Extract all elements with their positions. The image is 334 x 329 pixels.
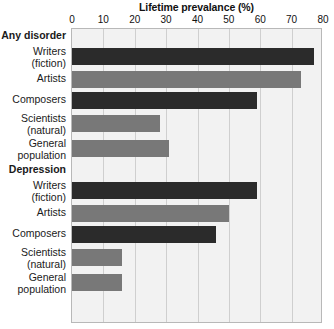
bar-label: Artists [0, 73, 66, 85]
chart-bar-row: Generalpopulation [0, 271, 334, 296]
bar [72, 182, 257, 199]
chart-bar-row: Artists [0, 204, 334, 225]
group-label: Any disorder [0, 30, 66, 42]
bar-label-line2: (natural) [0, 125, 66, 137]
bar-label: Writers(fiction) [0, 180, 66, 203]
group-label: Depression [0, 164, 66, 176]
chart-bar-row: Scientists(natural) [0, 246, 334, 271]
bar-label-line2: population [0, 284, 66, 296]
chart-container: Lifetime prevalance (%) 0102030405060708… [0, 0, 334, 329]
bar-label-line1: Writers [33, 45, 66, 57]
bar-label-line1: Scientists [21, 112, 66, 124]
chart-group-header: Depression [0, 162, 334, 179]
bar-label: Generalpopulation [0, 138, 66, 161]
bar-label-line1: Artists [37, 206, 66, 218]
chart-bar-row: Writers(fiction) [0, 179, 334, 204]
bar-label-line1: Scientists [21, 246, 66, 258]
bar [72, 274, 122, 291]
bar-label: Scientists(natural) [0, 247, 66, 270]
bar-label-line2: (natural) [0, 259, 66, 271]
bar-label-line2: (fiction) [0, 192, 66, 204]
bar [72, 205, 229, 222]
bar-label: Writers(fiction) [0, 46, 66, 69]
bar [72, 92, 257, 109]
chart-rows: Any disorderWriters(fiction)ArtistsCompo… [0, 0, 334, 329]
bar [72, 115, 160, 132]
bar [72, 140, 169, 157]
bar-label: Composers [0, 94, 66, 106]
bar-label-line2: (fiction) [0, 58, 66, 70]
bar-label-line1: Composers [12, 93, 66, 105]
bar-label-line1: General [29, 137, 66, 149]
chart-bar-row: Writers(fiction) [0, 45, 334, 70]
bar-label: Composers [0, 228, 66, 240]
bar [72, 48, 314, 65]
chart-group-header: Any disorder [0, 28, 334, 45]
chart-bar-row: Generalpopulation [0, 137, 334, 162]
chart-bar-row: Composers [0, 225, 334, 246]
bar [72, 249, 122, 266]
bar-label-line1: Artists [37, 72, 66, 84]
bar-label-line2: population [0, 150, 66, 162]
bar-label: Artists [0, 207, 66, 219]
bar-label-line1: Any disorder [1, 29, 66, 41]
bar-label-line1: Writers [33, 179, 66, 191]
bar [72, 71, 301, 88]
bar [72, 226, 216, 243]
chart-bar-row: Composers [0, 91, 334, 112]
bar-label-line1: Depression [9, 163, 66, 175]
bar-label: Scientists(natural) [0, 113, 66, 136]
bar-label: Generalpopulation [0, 272, 66, 295]
chart-bar-row: Scientists(natural) [0, 112, 334, 137]
bar-label-line1: General [29, 271, 66, 283]
chart-bar-row: Artists [0, 70, 334, 91]
bar-label-line1: Composers [12, 227, 66, 239]
